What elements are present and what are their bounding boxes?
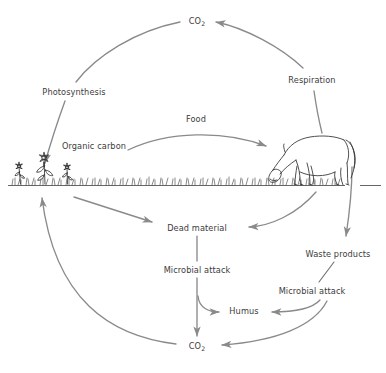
- node-label-microbial-attack-1: Microbial attack: [163, 266, 232, 274]
- flower-icon: [15, 162, 25, 184]
- node-label-co2-bottom: CO2: [188, 342, 206, 350]
- carbon-cycle-diagram: CO2 Photosynthesis Respiration Food Orga…: [0, 0, 386, 373]
- artwork-layer: [0, 0, 386, 373]
- grass-tufts: [12, 177, 340, 185]
- grazing-horse: [269, 136, 355, 185]
- node-label-food: Food: [185, 115, 207, 123]
- node-label-waste-products: Waste products: [305, 250, 372, 258]
- flower-icon: [37, 153, 53, 184]
- node-label-dead-material: Dead material: [166, 224, 228, 232]
- node-label-microbial-attack-2: Microbial attack: [278, 287, 347, 295]
- node-label-humus: Humus: [228, 307, 259, 315]
- node-label-photosynthesis: Photosynthesis: [41, 88, 106, 96]
- flower-cluster: [15, 153, 73, 184]
- flower-icon: [63, 163, 73, 184]
- node-label-organic-carbon: Organic carbon: [61, 142, 127, 150]
- node-label-respiration: Respiration: [287, 76, 336, 84]
- node-label-co2-top: CO2: [188, 17, 206, 25]
